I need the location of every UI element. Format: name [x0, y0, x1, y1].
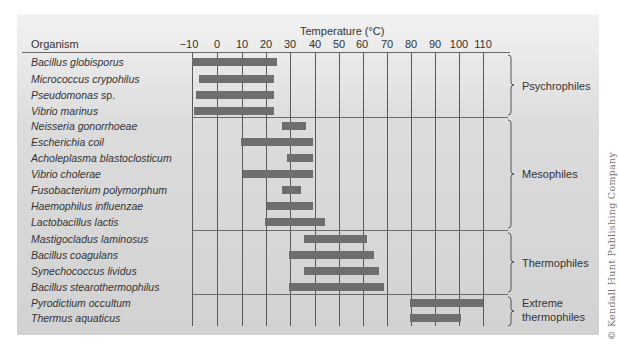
organism-label: Neisseria gonorrhoeae — [31, 120, 137, 132]
grid-line — [411, 52, 412, 326]
temperature-range-bar — [287, 154, 314, 162]
group-label-line: Extreme — [522, 296, 585, 310]
organism-label: Haemophilus influenzae — [31, 200, 143, 212]
organism-column-header: Organism — [31, 38, 79, 50]
temperature-range-bar — [289, 283, 384, 291]
temperature-range-bar — [197, 91, 275, 99]
temperature-range-bar — [410, 299, 483, 307]
temperature-range-bar — [304, 235, 367, 243]
brace-icon — [507, 119, 517, 229]
grid-line — [459, 52, 460, 326]
temperature-range-bar — [265, 218, 326, 226]
temperature-range-bar — [282, 186, 301, 194]
group-label-psychrophiles: Psychrophiles — [522, 79, 590, 93]
organism-label: Fusobacterium polymorphum — [31, 184, 167, 196]
organism-genus: Pseudomonas — [31, 89, 98, 101]
temperature-range-bar — [410, 314, 461, 322]
range-tick-mark — [196, 91, 197, 99]
tick-label: 90 — [429, 38, 441, 50]
organism-label: Bacillus globisporus — [31, 56, 124, 68]
tick-label: 110 — [474, 38, 492, 50]
organism-label: Escherichia coil — [31, 136, 104, 148]
organism-label: Thermus aquaticus — [31, 312, 120, 324]
organism-label: Micrococcus crypohilus — [31, 73, 140, 85]
tick-label: 0 — [214, 38, 220, 50]
organism-label: Vibrio marinus — [31, 105, 98, 117]
copyright-notice: © Kendall Hunt Publishing Company — [606, 152, 617, 340]
brace-icon — [507, 232, 517, 293]
group-separator — [192, 230, 508, 231]
tick-label: 30 — [284, 38, 296, 50]
group-label-extreme-thermophiles: Extreme thermophiles — [522, 296, 585, 324]
temperature-range-bar — [289, 251, 374, 259]
tick-label: 100 — [450, 38, 468, 50]
group-separator — [192, 294, 508, 295]
tick-label: 10 — [236, 38, 248, 50]
grid-line — [387, 52, 388, 326]
temperature-range-bar — [267, 202, 313, 210]
tick-label: 40 — [309, 38, 321, 50]
temperature-axis-title: Temperature (°C) — [300, 25, 384, 37]
group-separator — [192, 117, 508, 118]
organism-label: Mastigocladus laminosus — [31, 233, 148, 245]
temperature-range-bar — [282, 122, 306, 130]
organism-label: Pyrodictium occultum — [31, 297, 131, 309]
tick-label: 20 — [260, 38, 272, 50]
grid-line — [483, 52, 484, 326]
organism-species-suffix: sp. — [98, 89, 115, 101]
organism-label: Pseudomonas sp. — [31, 89, 115, 101]
tick-label: 60 — [356, 38, 368, 50]
organism-label: Vibrio cholerae — [31, 168, 101, 180]
brace-icon — [507, 296, 517, 327]
group-label-thermophiles: Thermophiles — [522, 256, 589, 270]
organism-label: Bacillus coagulans — [31, 249, 118, 261]
organism-label: Acholeplasma blastoclosticum — [31, 152, 172, 164]
organism-label: Bacillus stearothermophilus — [31, 281, 159, 293]
tick-label: 70 — [381, 38, 393, 50]
tick-label: −10 — [180, 38, 199, 50]
tick-label: 80 — [405, 38, 417, 50]
group-label-mesophiles: Mesophiles — [522, 167, 578, 181]
organism-label: Lactobacillus lactis — [31, 216, 119, 228]
temperature-range-bar — [194, 107, 274, 115]
temperature-range-bar — [304, 267, 379, 275]
grid-line — [435, 52, 436, 326]
temperature-range-bar — [243, 170, 313, 178]
grid-line — [192, 52, 193, 326]
organism-label: Synechococcus lividus — [31, 265, 137, 277]
temperature-range-bar — [241, 138, 314, 146]
brace-icon — [507, 54, 517, 116]
tick-label: 50 — [333, 38, 345, 50]
temperature-range-bar — [199, 75, 274, 83]
group-label-line: thermophiles — [522, 310, 585, 324]
temperature-range-bar — [192, 58, 277, 66]
